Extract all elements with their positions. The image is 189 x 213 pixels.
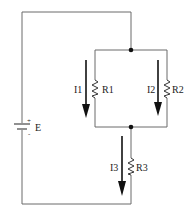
current-i3-label: I3 [110, 162, 118, 173]
arrow-down-icon [154, 102, 162, 116]
battery-source: + - E [14, 117, 41, 138]
resistor-r3-zigzag [128, 158, 134, 175]
circuit-diagram: + - E R1 R2 R3 I1 I2 I3 [0, 0, 189, 213]
current-i1-label: I1 [74, 84, 82, 95]
resistor-r2: R2 [164, 80, 184, 98]
resistor-r1-label: R1 [102, 84, 114, 95]
source-label-E: E [35, 122, 41, 133]
resistor-r3-label: R3 [136, 162, 148, 173]
wire-top [22, 12, 131, 50]
current-arrow-i2: I2 [147, 60, 162, 116]
resistor-r1: R1 [92, 80, 114, 98]
resistor-r2-label: R2 [172, 84, 184, 95]
resistor-r3: R3 [128, 158, 148, 175]
current-i2-label: I2 [147, 84, 155, 95]
current-arrow-i1: I1 [74, 60, 90, 118]
arrow-down-icon [118, 181, 126, 196]
junction-node-top [129, 48, 134, 53]
resistor-r1-zigzag [92, 80, 98, 98]
wires [22, 12, 167, 204]
battery-minus-label: - [28, 130, 31, 138]
current-arrow-i3: I3 [110, 136, 126, 196]
junction-node-bottom [129, 125, 134, 130]
arrow-down-icon [82, 104, 90, 118]
battery-plus-label: + [27, 117, 31, 125]
wire-bottom [22, 175, 131, 204]
resistor-r2-zigzag [164, 80, 170, 98]
